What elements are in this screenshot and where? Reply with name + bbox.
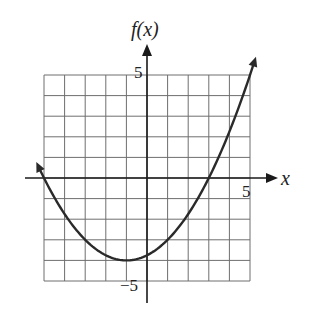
x-axis-label: x xyxy=(281,167,290,190)
function-graph xyxy=(0,0,309,312)
y-axis-label: f(x) xyxy=(131,18,159,41)
x-tick-label-5: 5 xyxy=(242,182,251,202)
y-tick-label-5: 5 xyxy=(134,63,143,83)
y-tick-label-neg5: −5 xyxy=(120,276,138,296)
axes xyxy=(25,44,278,303)
